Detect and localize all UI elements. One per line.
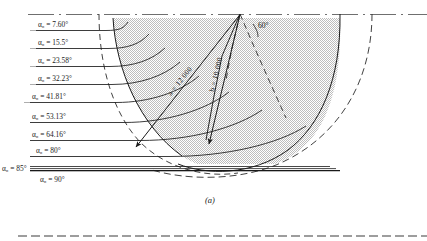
apex-angle-label: 60° [258, 21, 269, 30]
alpha-label-2: α₀ = 15.5° [38, 38, 68, 47]
alpha-label-7: α₀ = 64.16° [32, 130, 66, 139]
alpha-label-group: α₀ = 7.60° α₀ = 15.5° α₀ = 23.58° α₀ = 3… [2, 20, 72, 184]
figure-diagram: 60° a = 12 000 b = 10 000 α₀ = 7.60° α₀ … [0, 0, 427, 241]
figure-caption: (a) [205, 195, 215, 205]
alpha-label-6: α₀ = 53.13° [32, 112, 66, 121]
alpha-label-9: α₀ = 85° [2, 164, 27, 173]
alpha-convergence-bundle [30, 167, 340, 171]
alpha-label-10: α₀ = 90° [40, 175, 65, 184]
alpha-label-1: α₀ = 7.60° [38, 20, 68, 29]
alpha-label-8: α₀ = 80° [36, 146, 61, 155]
alpha-label-3: α₀ = 23.58° [38, 56, 72, 65]
alpha-label-5: α₀ = 41.81° [32, 92, 66, 101]
alpha-label-4: α₀ = 32.23° [38, 74, 72, 83]
shaded-region [108, 14, 346, 164]
